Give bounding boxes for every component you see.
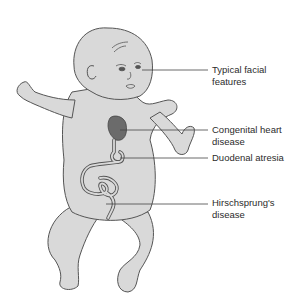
torso: [62, 88, 176, 221]
label-congenital-heart-disease: Congenital heart disease: [212, 124, 282, 147]
left-arm: [17, 82, 75, 118]
right-arm: [150, 112, 194, 155]
right-leg: [115, 212, 153, 292]
label-typical-facial-features: Typical facial features: [212, 64, 266, 87]
label-hirschsprungs-disease: Hirschsprung's disease: [212, 197, 275, 220]
infant-illustration: [0, 0, 290, 295]
label-duodenal-atresia: Duodenal atresia: [212, 152, 284, 164]
infant-diagram: Typical facial features Congenital heart…: [0, 0, 290, 295]
